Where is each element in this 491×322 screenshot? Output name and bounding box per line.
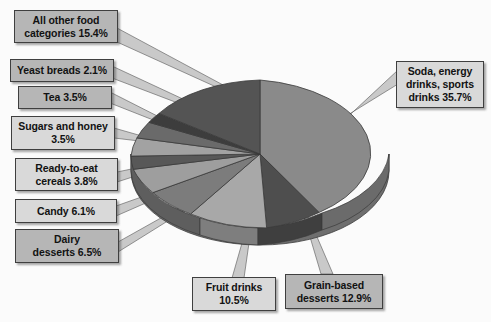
callout-category-name: desserts	[33, 246, 78, 258]
callout-soda-energy-drinks-sports-drinks[interactable]: Soda, energydrinks, sportsdrinks 35.7%	[396, 61, 484, 108]
callout-text: Yeast breads 2.1%	[14, 64, 110, 77]
callout-category-name: Grain-based	[304, 279, 364, 291]
callout-line: drinks, sports	[400, 78, 480, 91]
callout-category-name: Tea	[43, 91, 63, 103]
callout-category-name: drinks, sports	[406, 78, 474, 90]
callout-candy[interactable]: Candy 6.1%	[15, 199, 117, 223]
callout-text: Dairydesserts 6.5%	[19, 233, 115, 259]
callout-text: Ready-to-eatcereals 3.8%	[19, 162, 114, 188]
callout-percent: 15.4%	[79, 27, 108, 39]
callout-percent: 10.5%	[196, 294, 272, 307]
callout-fruit-drinks[interactable]: Fruit drinks10.5%	[192, 277, 276, 311]
callout-line: All other food	[18, 14, 114, 27]
callout-percent: 35.7%	[442, 91, 471, 103]
callout-tea[interactable]: Tea 3.5%	[18, 86, 112, 109]
callout-line: desserts 6.5%	[19, 246, 115, 259]
callout-dairy-desserts[interactable]: Dairydesserts 6.5%	[15, 229, 119, 263]
callout-percent: 3.5%	[15, 133, 111, 146]
callout-line: Dairy	[19, 233, 115, 246]
callout-category-name: Soda, energy	[408, 65, 473, 77]
callout-category-name: Fruit drinks	[196, 281, 272, 294]
callout-category-name: desserts	[297, 292, 342, 304]
callout-category-name: Sugars and honey	[15, 120, 111, 133]
callout-category-name: cereals	[36, 175, 74, 187]
callout-text: Fruit drinks10.5%	[196, 281, 272, 307]
callout-grain-based-desserts[interactable]: Grain-baseddesserts 12.9%	[285, 274, 383, 309]
callout-category-name: Yeast breads	[17, 64, 83, 76]
callout-line: desserts 12.9%	[289, 292, 379, 305]
callout-percent: 12.9%	[342, 292, 371, 304]
callout-category-name: categories	[24, 27, 78, 39]
callout-text: All other foodcategories 15.4%	[18, 14, 114, 40]
callout-line: Tea 3.5%	[22, 91, 108, 104]
callout-category-name: Candy	[37, 205, 71, 217]
callout-all-other-food-categories[interactable]: All other foodcategories 15.4%	[14, 10, 118, 43]
callout-text: Tea 3.5%	[22, 91, 108, 104]
callout-line: drinks 35.7%	[400, 91, 480, 104]
callout-percent: 3.8%	[74, 175, 98, 187]
callout-yeast-breads[interactable]: Yeast breads 2.1%	[10, 59, 114, 82]
callout-percent: 2.1%	[83, 64, 107, 76]
callout-text: Soda, energydrinks, sportsdrinks 35.7%	[400, 65, 480, 103]
callout-category-name: Dairy	[54, 233, 80, 245]
callout-category-name: Ready-to-eat	[35, 162, 97, 174]
callout-percent: 3.5%	[63, 91, 87, 103]
callout-text: Grain-baseddesserts 12.9%	[289, 279, 379, 305]
callout-line: Soda, energy	[400, 65, 480, 78]
callout-line: Ready-to-eat	[19, 162, 114, 175]
callout-text: Sugars and honey3.5%	[15, 120, 111, 146]
pie-chart-figure: All other foodcategories 15.4% Yeast bre…	[0, 0, 491, 322]
callout-line: Grain-based	[289, 279, 379, 292]
callout-line: Candy 6.1%	[19, 205, 113, 218]
callout-percent: 6.1%	[71, 205, 95, 217]
callout-text: Candy 6.1%	[19, 205, 113, 218]
callout-category-name: All other food	[33, 14, 100, 26]
callout-line: cereals 3.8%	[19, 175, 114, 188]
callout-line: Yeast breads 2.1%	[14, 64, 110, 77]
callout-category-name: drinks	[408, 91, 442, 103]
callout-line: categories 15.4%	[18, 27, 114, 40]
callout-sugars-and-honey[interactable]: Sugars and honey3.5%	[11, 116, 115, 150]
callout-percent: 6.5%	[78, 246, 102, 258]
callout-ready-to-eat-cereals[interactable]: Ready-to-eatcereals 3.8%	[15, 158, 118, 191]
